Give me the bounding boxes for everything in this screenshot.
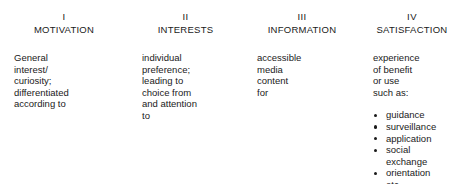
bullet-dot-icon xyxy=(374,137,377,140)
list-item: etc. xyxy=(373,179,455,184)
list-item-label: social xyxy=(386,144,410,155)
list-item: social exchange xyxy=(373,144,455,167)
body-line: General xyxy=(14,52,128,64)
body-line: such as: xyxy=(373,87,455,99)
four-stage-diagram: I MOTIVATION General interest/ curiosity… xyxy=(0,0,455,184)
list-item-label: guidance xyxy=(386,109,425,120)
body-line: interest/ xyxy=(14,64,128,76)
list-item: orientation xyxy=(373,167,455,179)
column-body: General interest/ curiosity; differentia… xyxy=(14,52,128,110)
column-header: III INFORMATION xyxy=(257,11,361,35)
body-line: or use xyxy=(373,75,455,87)
list-item-continuation: exchange xyxy=(386,156,455,168)
list-item-label: etc. xyxy=(386,179,401,184)
body-line: choice from xyxy=(142,87,243,99)
column-numeral: IV xyxy=(373,11,451,23)
satisfaction-bullet-list: guidance surveillance application social… xyxy=(373,109,455,184)
bullet-dot-icon xyxy=(374,125,377,128)
diagram-column-information: III INFORMATION accessible media content… xyxy=(243,11,361,184)
body-line: experience xyxy=(373,52,455,64)
column-header: IV SATISFACTION xyxy=(373,11,455,35)
column-title: INFORMATION xyxy=(257,24,347,36)
list-item-label: application xyxy=(386,133,431,144)
bullet-dot-icon xyxy=(374,149,377,152)
column-numeral: II xyxy=(142,11,229,23)
body-line: differentiated xyxy=(14,87,128,99)
body-line: curiosity; xyxy=(14,75,128,87)
list-item: surveillance xyxy=(373,121,455,133)
list-item: guidance xyxy=(373,109,455,121)
column-numeral: I xyxy=(14,11,114,23)
diagram-column-interests: II INTERESTS individual preference; lead… xyxy=(128,11,243,184)
column-body: experience of benefit or use such as: xyxy=(373,52,455,98)
diagram-column-motivation: I MOTIVATION General interest/ curiosity… xyxy=(0,11,128,184)
body-line: according to xyxy=(14,98,128,110)
body-line: for xyxy=(257,87,361,99)
column-title: INTERESTS xyxy=(142,24,229,36)
bullet-dot-icon xyxy=(374,172,377,175)
body-line: accessible xyxy=(257,52,361,64)
body-line: individual xyxy=(142,52,243,64)
list-item-label: orientation xyxy=(386,167,430,178)
body-line: content xyxy=(257,75,361,87)
body-line: and attention xyxy=(142,98,243,110)
list-item: application xyxy=(373,133,455,145)
column-header: II INTERESTS xyxy=(142,11,243,35)
column-numeral: III xyxy=(257,11,347,23)
column-title: SATISFACTION xyxy=(373,24,451,36)
list-item-label: surveillance xyxy=(386,121,436,132)
column-header: I MOTIVATION xyxy=(14,11,128,35)
body-line: preference; xyxy=(142,64,243,76)
body-line: of benefit xyxy=(373,64,455,76)
body-line: leading to xyxy=(142,75,243,87)
body-line: media xyxy=(257,64,361,76)
body-line: to xyxy=(142,110,243,122)
diagram-column-satisfaction: IV SATISFACTION experience of benefit or… xyxy=(361,11,455,184)
column-body: accessible media content for xyxy=(257,52,361,98)
column-body: individual preference; leading to choice… xyxy=(142,52,243,122)
bullet-dot-icon xyxy=(374,114,377,117)
column-title: MOTIVATION xyxy=(14,24,114,36)
